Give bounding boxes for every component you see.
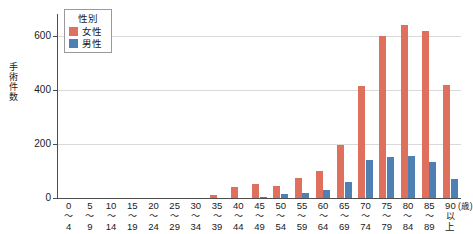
bar-female [379, 36, 386, 198]
x-tick-label: 70〜74 [355, 200, 376, 232]
bar-female [337, 145, 344, 198]
x-axis-unit-label: (歳) [458, 201, 473, 211]
x-tick-label-line: 以 [440, 211, 461, 221]
x-tick-label-line: 89 [419, 221, 440, 232]
bar-female [443, 85, 450, 198]
x-tick-label-line: 75 [376, 200, 397, 211]
bar-female [210, 195, 217, 198]
x-tick-label-line: 〜 [355, 211, 376, 221]
legend-item-female[interactable]: 女性 [69, 26, 107, 37]
x-tick-label: 40〜44 [228, 200, 249, 232]
y-axis-title: 手術件数 [6, 62, 20, 102]
x-tick-label: 50〜54 [270, 200, 291, 232]
bar-group [295, 14, 310, 198]
x-tick-label-line: 74 [355, 221, 376, 232]
x-tick-label-line: 54 [270, 221, 291, 232]
bar-group [252, 14, 267, 198]
x-tick-label-line: 59 [291, 221, 312, 232]
x-tick-label-line: 14 [100, 221, 121, 232]
x-tick-label-line: 15 [122, 200, 143, 211]
bar-male [302, 193, 309, 198]
y-tick-label: 400 [34, 85, 51, 95]
legend-swatch-female [69, 27, 78, 36]
bar-male [345, 182, 352, 198]
x-tick-label-line: 70 [355, 200, 376, 211]
x-tick-label: 10〜14 [100, 200, 121, 232]
plot-area: 0200400600 [57, 14, 461, 198]
x-tick-label-line: 65 [334, 200, 355, 211]
x-tick-label-line: 85 [419, 200, 440, 211]
x-tick-label: 30〜34 [185, 200, 206, 232]
x-tick-label-line: 〜 [143, 211, 164, 221]
x-tick-label-line: 〜 [58, 211, 79, 221]
x-tick-label: 85〜89 [419, 200, 440, 232]
x-tick-label-line: 9 [79, 221, 100, 232]
bar-group [210, 14, 225, 198]
y-tick-mark [53, 144, 57, 145]
legend-swatch-male [69, 39, 78, 48]
legend-item-male[interactable]: 男性 [69, 38, 107, 49]
x-tick-label-line: 80 [397, 200, 418, 211]
bar-female [316, 171, 323, 198]
x-tick-label-line: 34 [185, 221, 206, 232]
x-tick-label: 65〜69 [334, 200, 355, 232]
x-tick-label-line: 〜 [291, 211, 312, 221]
x-tick-label-line: 35 [206, 200, 227, 211]
x-tick-label-line: 〜 [270, 211, 291, 221]
y-tick-mark [53, 198, 57, 199]
bar-male [281, 194, 288, 198]
x-tick-label-line: 〜 [376, 211, 397, 221]
x-tick-label-line: 29 [164, 221, 185, 232]
x-tick-label-line: 55 [291, 200, 312, 211]
x-tick-label-line: 79 [376, 221, 397, 232]
x-tick-label-line: 〜 [397, 211, 418, 221]
x-tick-label-line: 〜 [334, 211, 355, 221]
x-tick-label-line: 24 [143, 221, 164, 232]
x-tick-label: 75〜79 [376, 200, 397, 232]
bar-female [422, 31, 429, 198]
bar-female [231, 187, 238, 198]
bar-group [231, 14, 246, 198]
bar-male [408, 156, 415, 198]
bar-group [358, 14, 373, 198]
x-tick-label-line: 10 [100, 200, 121, 211]
bar-male [323, 190, 330, 198]
x-tick-label-line: 20 [143, 200, 164, 211]
x-tick-label-line: 49 [249, 221, 270, 232]
x-tick-label-line: 45 [249, 200, 270, 211]
bar-female [252, 184, 259, 198]
x-tick-label-line: 60 [313, 200, 334, 211]
x-tick-label: 55〜59 [291, 200, 312, 232]
bar-group [125, 14, 140, 198]
x-tick-label-line: 0 [58, 200, 79, 211]
x-tick-label: 20〜24 [143, 200, 164, 232]
bar-female [401, 25, 408, 198]
bar-male [366, 160, 373, 198]
x-tick-label: 0〜4 [58, 200, 79, 232]
x-axis-line [57, 198, 461, 199]
x-tick-label: 45〜49 [249, 200, 270, 232]
x-tick-label: 80〜84 [397, 200, 418, 232]
y-tick-label: 200 [34, 139, 51, 149]
bar-group [167, 14, 182, 198]
x-tick-label-line: 50 [270, 200, 291, 211]
x-tick-label-line: 〜 [206, 211, 227, 221]
x-tick-label: 35〜39 [206, 200, 227, 232]
bar-female [358, 86, 365, 198]
bar-group [316, 14, 331, 198]
x-tick-label-line: 〜 [419, 211, 440, 221]
x-tick-label: 25〜29 [164, 200, 185, 232]
bar-group [337, 14, 352, 198]
legend-title: 性別 [69, 13, 107, 24]
y-tick-label: 0 [45, 193, 51, 203]
bar-male [387, 157, 394, 198]
x-tick-label: 15〜19 [122, 200, 143, 232]
x-tick-label-line: 44 [228, 221, 249, 232]
x-tick-label-line: 25 [164, 200, 185, 211]
bar-male [429, 162, 436, 198]
legend-label-female: 女性 [82, 26, 102, 37]
x-tick-label-line: 5 [79, 200, 100, 211]
x-tick-label: 60〜64 [313, 200, 334, 232]
x-tick-label-line: 30 [185, 200, 206, 211]
